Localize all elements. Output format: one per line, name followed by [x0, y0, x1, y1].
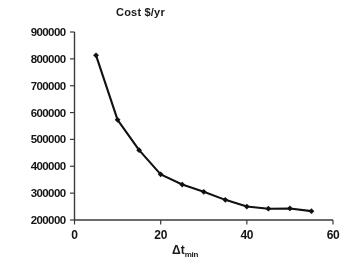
y-tick-label-800000: 800000: [31, 53, 66, 65]
y-tick-label-900000: 900000: [31, 26, 66, 38]
x-tick-label-60: 60: [327, 228, 340, 242]
data-point-40: [244, 204, 250, 210]
y-tick-label-200000: 200000: [31, 214, 66, 226]
x-axis-title: Δtmin: [172, 243, 198, 259]
data-point-30: [201, 189, 207, 195]
data-point-35: [222, 197, 228, 203]
y-tick-label-300000: 300000: [31, 187, 66, 199]
x-tick-label-0: 0: [71, 228, 77, 242]
x-tick-label-40: 40: [240, 228, 253, 242]
data-point-55: [309, 208, 315, 214]
data-point-50: [287, 206, 293, 212]
x-axis-title-subscript: min: [185, 250, 199, 259]
x-tick-label-20: 20: [154, 228, 167, 242]
y-tick-label-700000: 700000: [31, 80, 66, 92]
series-line: [96, 55, 311, 211]
chart-figure: Cost $/yr 200000300000400000500000600000…: [0, 0, 347, 267]
data-point-45: [265, 206, 271, 212]
x-axis-title-base: Δt: [172, 243, 185, 257]
y-tick-label-500000: 500000: [31, 133, 66, 145]
y-tick-label-400000: 400000: [31, 160, 66, 172]
y-tick-label-600000: 600000: [31, 107, 66, 119]
data-point-5: [93, 52, 99, 58]
